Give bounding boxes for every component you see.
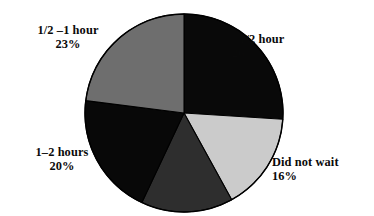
pie-label-one-to-two-hours-text: 1–2 hours (6, 146, 118, 160)
pie-label-half-to-one-hour-percent: 23% (8, 38, 128, 52)
pie-chart: <1/2 hour 26% 1/2 –1 hour 23% 1–2 hours … (0, 0, 374, 216)
pie-label-one-to-two-hours-percent: 20% (6, 160, 118, 174)
pie-label-did-not-wait-text: Did not wait (272, 156, 372, 170)
pie-label-one-to-two-hours: 1–2 hours 20% (6, 146, 118, 174)
pie-label-did-not-wait: Did not wait 16% (272, 156, 372, 184)
pie-label-did-not-wait-percent: 16% (272, 170, 372, 184)
pie-label-lt-half-hour-percent: 26% (232, 47, 336, 61)
pie-label-lt-half-hour: <1/2 hour 26% (232, 33, 336, 61)
pie-slice-lt-half-hour (184, 14, 283, 119)
pie-label-half-to-one-hour-text: 1/2 –1 hour (8, 24, 128, 38)
pie-label-lt-half-hour-text: <1/2 hour (232, 33, 336, 47)
pie-label-half-to-one-hour: 1/2 –1 hour 23% (8, 24, 128, 52)
